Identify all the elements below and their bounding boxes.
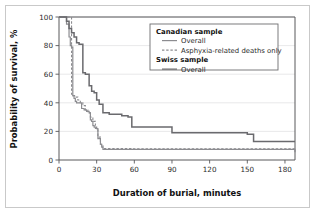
ytick-label-100: 100 (39, 13, 53, 22)
survival-curve-chart: 0204060801000306090120150180 Canadian sa… (0, 0, 317, 215)
xtick-label-0: 0 (57, 165, 62, 174)
legend-entry-label-1-0: Overall (181, 66, 206, 74)
chart-root: 0204060801000306090120150180 Canadian sa… (0, 0, 317, 215)
xtick-label-150: 150 (240, 165, 254, 174)
ytick-label-0: 0 (48, 156, 53, 165)
legend-group-label-1: Swiss sample (156, 56, 209, 64)
ytick-label-20: 20 (44, 127, 54, 136)
legend-group-label-0: Canadian sample (156, 28, 223, 36)
xtick-label-90: 90 (167, 165, 177, 174)
xtick-label-180: 180 (278, 165, 292, 174)
ytick-label-40: 40 (44, 99, 54, 108)
legend-entry-label-0-1: Asphyxia-related deaths only (181, 47, 282, 55)
legend-entry-label-0-0: Overall (181, 37, 206, 45)
ytick-label-80: 80 (44, 41, 54, 50)
xtick-label-120: 120 (203, 165, 217, 174)
ytick-label-60: 60 (44, 70, 54, 79)
x-axis-title: Duration of burial, minutes (113, 188, 241, 198)
chart-legend: Canadian sampleOverallAsphyxia-related d… (150, 24, 282, 74)
xtick-label-60: 60 (130, 165, 140, 174)
xtick-label-30: 30 (92, 165, 102, 174)
y-axis-title: Probability of survival, % (9, 29, 19, 148)
